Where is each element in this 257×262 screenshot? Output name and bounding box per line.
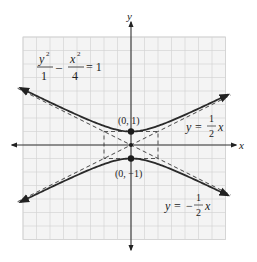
equation-den1: 1 [41, 69, 47, 83]
asym1-lhs: y = [185, 120, 202, 134]
vertex-label-bottom: (0, −1) [115, 168, 142, 180]
asym1-num: 1 [209, 113, 214, 124]
equation-exp2: 2 [77, 50, 81, 58]
vertex-point-top [128, 128, 134, 134]
vertex-label-top: (0, 1) [118, 115, 140, 127]
center-point [129, 143, 133, 147]
asym2-num: 1 [196, 192, 201, 203]
equation-equals: = 1 [86, 60, 102, 74]
asym2-lhs: y = [164, 199, 181, 213]
equation-minus: – [55, 60, 63, 74]
asym1-den: 2 [209, 128, 214, 139]
asym2-den: 2 [196, 207, 201, 218]
y-axis-label: y [126, 10, 132, 22]
asym1-var: x [217, 120, 224, 134]
equation-num1: y [38, 52, 45, 66]
equation-den2: 4 [72, 69, 78, 83]
asym2-var: x [204, 199, 211, 213]
hyperbola-figure: y x y 2 1 – x 2 4 = 1 (0, 1) (0, −1) y =… [0, 0, 257, 262]
equation-exp1: 2 [46, 50, 50, 58]
equation-num2: x [69, 52, 76, 66]
vertex-point-bottom [128, 155, 134, 161]
asym2-sign: − [186, 199, 193, 213]
x-axis-label: x [238, 139, 244, 151]
